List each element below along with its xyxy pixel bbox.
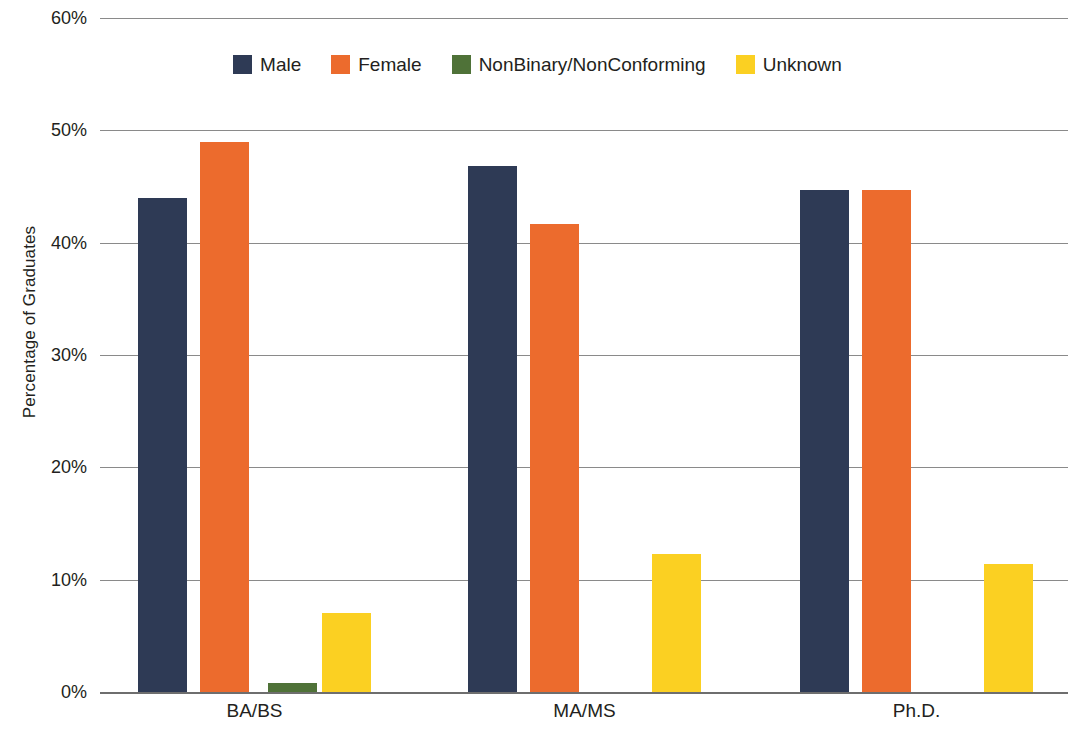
plot-area: 0%10%20%30%40%50%60%	[100, 18, 1068, 692]
y-axis-tick-label: 40%	[0, 232, 87, 253]
chart-legend: MaleFemaleNonBinary/NonConformingUnknown	[0, 55, 1075, 74]
gridline	[100, 130, 1068, 131]
bar-BABS-Female	[200, 142, 249, 692]
legend-item-label: Unknown	[763, 55, 842, 74]
y-axis-tick-label: 0%	[0, 682, 87, 703]
y-axis-tick-label: 10%	[0, 569, 87, 590]
axis-baseline	[100, 692, 1068, 694]
bar-BABS-NonBinaryNonConforming	[268, 683, 317, 692]
bar-MAMS-Unknown	[652, 554, 701, 692]
gridline	[100, 18, 1068, 19]
y-axis-tick-label: 60%	[0, 8, 87, 29]
x-axis-category-label: Ph.D.	[893, 700, 941, 722]
bar-PhD-Female	[862, 190, 911, 692]
legend-item-label: NonBinary/NonConforming	[479, 55, 706, 74]
bar-chart: Percentage of Graduates 0%10%20%30%40%50…	[0, 0, 1075, 730]
bar-MAMS-Male	[468, 166, 517, 692]
bar-PhD-Unknown	[984, 564, 1033, 692]
bar-PhD-Male	[800, 190, 849, 692]
y-axis-title: Percentage of Graduates	[20, 152, 40, 492]
legend-item-Male[interactable]: Male	[233, 55, 301, 74]
bar-BABS-Male	[138, 198, 187, 692]
legend-swatch-icon	[452, 55, 471, 74]
legend-item-NonBinaryNonConforming[interactable]: NonBinary/NonConforming	[452, 55, 706, 74]
x-axis-category-label: BA/BS	[227, 700, 283, 722]
legend-swatch-icon	[331, 55, 350, 74]
legend-item-Unknown[interactable]: Unknown	[736, 55, 842, 74]
y-axis-tick-label: 30%	[0, 345, 87, 366]
bar-BABS-Unknown	[322, 613, 371, 692]
legend-swatch-icon	[233, 55, 252, 74]
legend-item-label: Male	[260, 55, 301, 74]
x-axis-category-label: MA/MS	[553, 700, 615, 722]
y-axis-tick-label: 50%	[0, 120, 87, 141]
y-axis-tick-label: 20%	[0, 457, 87, 478]
legend-item-label: Female	[358, 55, 421, 74]
legend-item-Female[interactable]: Female	[331, 55, 421, 74]
legend-swatch-icon	[736, 55, 755, 74]
bar-MAMS-Female	[530, 224, 579, 692]
